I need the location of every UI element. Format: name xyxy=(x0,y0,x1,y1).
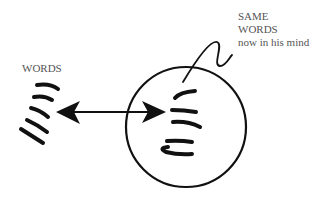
mind-words-label-line2: WORDS xyxy=(238,23,309,36)
pointer-squiggle xyxy=(183,42,232,82)
double-arrow xyxy=(56,101,166,124)
head-circle xyxy=(126,67,246,187)
diagram-canvas: WORDS SAME WORDS now in his mind xyxy=(0,0,333,201)
mind-words-label-line1: SAME xyxy=(238,10,309,23)
external-words-strokes xyxy=(21,85,58,144)
mind-words-label-line3: now in his mind xyxy=(238,36,309,49)
mind-words-label: SAME WORDS now in his mind xyxy=(238,10,309,49)
mind-words-strokes xyxy=(162,91,200,154)
external-words-label: WORDS xyxy=(22,62,62,75)
